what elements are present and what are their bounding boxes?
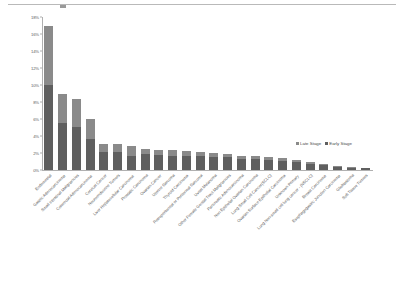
bar-segment-early-stage[interactable] <box>168 156 177 170</box>
bar-slot[interactable] <box>331 17 345 170</box>
y-axis-tick-label: 14% <box>31 48 39 53</box>
x-axis-labels: EndometrialGastric AdenocarcinomaSmall I… <box>42 171 372 291</box>
bar-stack[interactable] <box>278 17 287 170</box>
bar-slot[interactable] <box>248 17 262 170</box>
bar-stack[interactable] <box>209 17 218 170</box>
y-axis-tick-label: 18% <box>31 15 39 20</box>
bar-slot[interactable] <box>221 17 235 170</box>
bar-segment-early-stage[interactable] <box>292 162 301 170</box>
bar-segment-early-stage[interactable] <box>86 139 95 170</box>
bar-segment-early-stage[interactable] <box>141 154 150 170</box>
y-axis-tick-label: 12% <box>31 66 39 71</box>
bar-slot[interactable] <box>207 17 221 170</box>
bar-segment-early-stage[interactable] <box>361 168 370 170</box>
legend-item[interactable]: Late Stage <box>296 141 321 146</box>
bar-slot[interactable] <box>42 17 56 170</box>
bar-slot[interactable] <box>152 17 166 170</box>
bar-segment-early-stage[interactable] <box>127 156 136 170</box>
bar-slot[interactable] <box>358 17 372 170</box>
bar-slot[interactable] <box>83 17 97 170</box>
bar-slot[interactable] <box>111 17 125 170</box>
scan-artifact-line <box>8 4 396 5</box>
bar-stack[interactable] <box>251 17 260 170</box>
y-axis-tick-label: 4% <box>33 134 39 139</box>
bar-stack[interactable] <box>333 17 342 170</box>
y-axis-tick-label: 8% <box>33 100 39 105</box>
bar-segment-early-stage[interactable] <box>58 123 67 170</box>
bar-stack[interactable] <box>264 17 273 170</box>
legend-label: Early Stage <box>329 141 352 146</box>
bar-segment-early-stage[interactable] <box>251 159 260 170</box>
bar-slot[interactable] <box>235 17 249 170</box>
y-axis-tick-label: 6% <box>33 117 39 122</box>
bar-segment-early-stage[interactable] <box>209 157 218 170</box>
bar-segment-early-stage[interactable] <box>113 152 122 170</box>
bar-segment-early-stage[interactable] <box>154 155 163 170</box>
bar-slot[interactable] <box>290 17 304 170</box>
bar-stack[interactable] <box>58 17 67 170</box>
legend-item[interactable]: Early Stage <box>325 141 352 146</box>
bar-stack[interactable] <box>72 17 81 170</box>
bar-stack[interactable] <box>182 17 191 170</box>
bar-segment-early-stage[interactable] <box>223 157 232 170</box>
bar-slot[interactable] <box>97 17 111 170</box>
plot-area: 18%16%14%12%10%8%6%4%2%0% <box>42 17 372 170</box>
bar-slot[interactable] <box>303 17 317 170</box>
bar-segment-late-stage[interactable] <box>72 99 81 126</box>
bar-segment-early-stage[interactable] <box>264 160 273 170</box>
legend-swatch-icon <box>325 142 328 145</box>
bar-segment-early-stage[interactable] <box>44 85 53 170</box>
bar-segment-early-stage[interactable] <box>237 159 246 170</box>
bar-slot[interactable] <box>125 17 139 170</box>
bar-stack[interactable] <box>113 17 122 170</box>
bar-segment-early-stage[interactable] <box>347 168 356 170</box>
bar-segment-early-stage[interactable] <box>278 161 287 170</box>
bar-series-group <box>42 17 372 170</box>
bar-slot[interactable] <box>138 17 152 170</box>
bar-stack[interactable] <box>154 17 163 170</box>
bar-segment-late-stage[interactable] <box>127 146 136 155</box>
bar-stack[interactable] <box>306 17 315 170</box>
bar-stack[interactable] <box>361 17 370 170</box>
chart-legend: Late StageEarly Stage <box>296 141 352 146</box>
bar-stack[interactable] <box>319 17 328 170</box>
y-axis-tick-label: 10% <box>31 82 39 87</box>
bar-segment-early-stage[interactable] <box>196 156 205 170</box>
bar-slot[interactable] <box>180 17 194 170</box>
bar-slot[interactable] <box>317 17 331 170</box>
y-axis-tick-label: 16% <box>31 31 39 36</box>
scan-artifact-mark <box>60 5 66 8</box>
legend-swatch-icon <box>296 142 299 145</box>
bar-stack[interactable] <box>86 17 95 170</box>
bar-segment-early-stage[interactable] <box>182 156 191 170</box>
bar-segment-early-stage[interactable] <box>333 167 342 170</box>
y-axis-tick-label: 2% <box>33 150 39 155</box>
bar-slot[interactable] <box>70 17 84 170</box>
bar-stack[interactable] <box>168 17 177 170</box>
bar-segment-late-stage[interactable] <box>44 26 53 86</box>
bar-segment-early-stage[interactable] <box>99 152 108 170</box>
bar-stack[interactable] <box>99 17 108 170</box>
bar-slot[interactable] <box>345 17 359 170</box>
bar-segment-late-stage[interactable] <box>99 144 108 152</box>
bar-stack[interactable] <box>141 17 150 170</box>
bar-slot[interactable] <box>56 17 70 170</box>
bar-stack[interactable] <box>292 17 301 170</box>
bar-segment-late-stage[interactable] <box>113 144 122 152</box>
bar-segment-late-stage[interactable] <box>86 119 95 139</box>
chart-page: 18%16%14%12%10%8%6%4%2%0% EndometrialGas… <box>0 0 403 299</box>
bar-slot[interactable] <box>166 17 180 170</box>
bar-segment-early-stage[interactable] <box>319 165 328 170</box>
bar-slot[interactable] <box>262 17 276 170</box>
bar-stack[interactable] <box>237 17 246 170</box>
bar-slot[interactable] <box>276 17 290 170</box>
bar-stack[interactable] <box>347 17 356 170</box>
bar-stack[interactable] <box>196 17 205 170</box>
bar-segment-late-stage[interactable] <box>58 94 67 124</box>
bar-segment-early-stage[interactable] <box>72 127 81 170</box>
bar-stack[interactable] <box>223 17 232 170</box>
bar-stack[interactable] <box>127 17 136 170</box>
bar-segment-early-stage[interactable] <box>306 164 315 170</box>
bar-stack[interactable] <box>44 17 53 170</box>
bar-slot[interactable] <box>193 17 207 170</box>
